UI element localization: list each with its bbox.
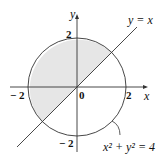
tick-x-pos: 2 <box>126 89 132 101</box>
circle-equation-label: x² + y² = 4 <box>102 140 155 154</box>
circle-label-leader <box>112 121 120 135</box>
region-diagram: y x 2 − 2 − 2 2 0 y = x x² + y² = 4 <box>0 0 165 161</box>
tick-x-neg: − 2 <box>10 89 25 101</box>
line-label: y = x <box>127 13 153 27</box>
x-axis-label: x <box>143 89 150 103</box>
y-axis-label: y <box>69 7 76 21</box>
tick-y-pos: 2 <box>66 28 72 40</box>
tick-y-neg: − 2 <box>59 137 74 149</box>
tick-origin: 0 <box>79 89 85 101</box>
y-axis-arrow-icon <box>75 14 79 19</box>
